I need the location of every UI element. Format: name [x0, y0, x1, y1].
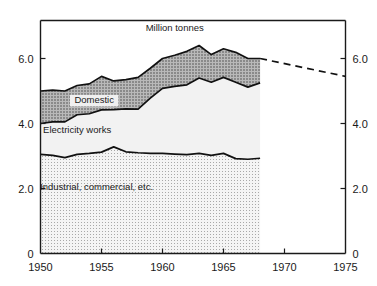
- y-axis-left-tick-label: 0: [27, 248, 33, 260]
- unit-annotation: Million tonnes: [146, 22, 204, 33]
- y-axis-left-tick-label: 2.0: [18, 183, 33, 195]
- y-axis-right-ticks: [341, 59, 346, 189]
- x-axis-tick-label: 1975: [333, 261, 357, 273]
- domestic-annotation: Domestic: [70, 94, 118, 106]
- industrial-annotation: Industrial, commercial, etc.: [40, 181, 153, 192]
- y-axis-left-tick-label: 4.0: [18, 118, 33, 130]
- y-axis-right-tick-label: 2.0: [353, 183, 368, 195]
- chart-container: 02.04.06.0 02.04.06.0 195019551960196519…: [0, 0, 377, 286]
- y-axis-right-tick-labels: 02.04.06.0: [353, 53, 368, 260]
- curve-projection-dashed: [260, 59, 345, 77]
- unit-annotation-text: Million tonnes: [146, 22, 204, 33]
- electricity-annotation-text: Electricity works: [43, 124, 111, 135]
- y-axis-right-tick-label: 6.0: [353, 53, 368, 65]
- electricity-annotation: Electricity works: [43, 124, 111, 135]
- stacked-bands: [41, 46, 261, 254]
- band-industrial: [41, 147, 261, 254]
- y-axis-right-tick-label: 4.0: [353, 118, 368, 130]
- x-axis-tick-label: 1970: [272, 261, 296, 273]
- y-axis-left-tick-labels: 02.04.06.0: [18, 53, 33, 260]
- industrial-annotation-text: Industrial, commercial, etc.: [40, 181, 153, 192]
- x-axis-tick-label: 1960: [150, 261, 174, 273]
- x-axis-tick-label: 1950: [28, 261, 52, 273]
- domestic-annotation-text: Domestic: [74, 94, 114, 105]
- y-axis-right-tick-label: 0: [353, 248, 359, 260]
- area-chart: 02.04.06.0 02.04.06.0 195019551960196519…: [0, 0, 377, 286]
- x-axis-tick-label: 1955: [89, 261, 113, 273]
- x-axis-tick-labels: 195019551960196519701975: [28, 261, 357, 273]
- y-axis-left-tick-label: 6.0: [18, 53, 33, 65]
- x-axis-tick-label: 1965: [211, 261, 235, 273]
